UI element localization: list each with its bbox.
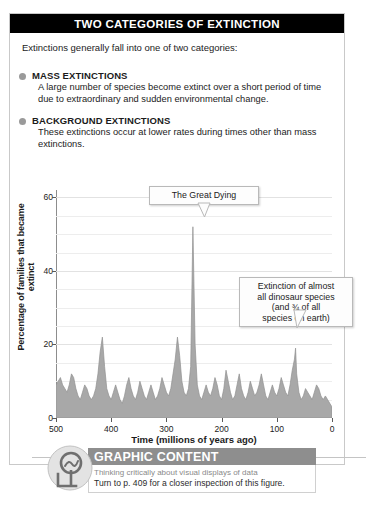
footer-rule-right: [308, 457, 366, 458]
card-header: TWO CATEGORIES OF EXTINCTION: [10, 14, 344, 33]
filled-circle-bullet-icon: [19, 73, 26, 80]
card-header-title: TWO CATEGORIES OF EXTINCTION: [74, 18, 280, 30]
filled-circle-bullet-icon: [19, 118, 26, 125]
footer-banner-title: GRAPHIC CONTENT: [94, 450, 219, 464]
intro-text: Extinctions generally fall into one of t…: [22, 42, 334, 54]
category-title: MASS EXTINCTIONS: [32, 70, 339, 81]
footer-text-box: Thinking critically about visual display…: [88, 465, 316, 493]
callout-leader-lines: [10, 162, 346, 447]
footer-subtitle: Thinking critically about visual display…: [94, 467, 310, 478]
footer-banner: GRAPHIC CONTENT: [88, 448, 316, 465]
category-background-extinctions: BACKGROUND EXTINCTIONS These extinctions…: [19, 115, 339, 150]
magnifier-chart-icon: [46, 444, 94, 492]
footer-reference-line: Turn to p. 409 for a closer inspection o…: [94, 478, 310, 489]
category-body: A large number of species become extinct…: [38, 82, 339, 105]
graphic-content-footer: GRAPHIC CONTENT Thinking critically abou…: [46, 446, 318, 496]
category-title: BACKGROUND EXTINCTIONS: [32, 115, 339, 126]
category-mass-extinctions: MASS EXTINCTIONS A large number of speci…: [19, 70, 339, 105]
extinction-info-card: TWO CATEGORIES OF EXTINCTION Extinctions…: [9, 13, 345, 465]
extinction-chart: Percentage of families that became extin…: [10, 162, 346, 447]
category-body: These extinctions occur at lower rates d…: [38, 127, 339, 150]
